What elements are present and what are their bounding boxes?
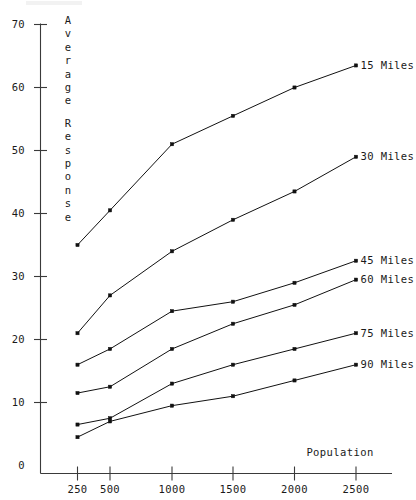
y-tick-label: 40 bbox=[12, 207, 25, 219]
series-label-90-miles: 90 Miles bbox=[361, 358, 415, 370]
data-point-marker bbox=[231, 395, 234, 398]
data-point-marker bbox=[76, 332, 79, 335]
data-point-marker bbox=[108, 347, 111, 350]
series-line-75-miles bbox=[78, 333, 357, 424]
series-label-45-miles: 45 Miles bbox=[361, 254, 415, 266]
data-point-marker bbox=[293, 303, 296, 306]
data-point-marker bbox=[170, 250, 173, 253]
x-tick-label: 2500 bbox=[343, 483, 370, 495]
series-line-15-miles bbox=[78, 65, 357, 245]
data-point-marker bbox=[231, 114, 234, 117]
y-tick-label: 30 bbox=[12, 270, 25, 282]
data-point-marker bbox=[293, 281, 296, 284]
x-tick-label: 250 bbox=[67, 483, 87, 495]
series-line-60-miles bbox=[78, 280, 357, 393]
data-point-marker bbox=[231, 218, 234, 221]
data-point-marker bbox=[354, 278, 357, 281]
data-point-marker bbox=[170, 143, 173, 146]
chart-plot-area: 010203040506070 2505001000150020002500 1… bbox=[0, 0, 416, 500]
y-tick-label: 10 bbox=[12, 396, 25, 408]
data-point-marker bbox=[293, 347, 296, 350]
y-tick-label: 70 bbox=[12, 18, 25, 30]
x-tick-label: 500 bbox=[100, 483, 120, 495]
data-point-marker bbox=[108, 294, 111, 297]
series-line-30-miles bbox=[78, 157, 357, 333]
data-point-marker bbox=[108, 420, 111, 423]
chart-container: AverageResponse 010203040506070 25050010… bbox=[0, 0, 416, 500]
series-label-30-miles: 30 Miles bbox=[361, 150, 415, 162]
y-axis-ticks: 010203040506070 bbox=[12, 18, 47, 471]
data-point-marker bbox=[293, 86, 296, 89]
series-label-75-miles: 75 Miles bbox=[361, 327, 415, 339]
data-point-marker bbox=[170, 347, 173, 350]
data-point-marker bbox=[354, 363, 357, 366]
x-tick-label: 2000 bbox=[281, 483, 308, 495]
data-point-marker bbox=[76, 363, 79, 366]
data-point-marker bbox=[108, 417, 111, 420]
data-point-marker bbox=[354, 64, 357, 67]
data-point-marker bbox=[354, 332, 357, 335]
y-tick-label: 20 bbox=[12, 333, 25, 345]
data-point-marker bbox=[76, 391, 79, 394]
x-axis-ticks: 2505001000150020002500 bbox=[67, 467, 369, 495]
data-point-marker bbox=[293, 190, 296, 193]
axes bbox=[41, 24, 393, 474]
data-point-marker bbox=[76, 243, 79, 246]
series-line-90-miles bbox=[78, 365, 357, 437]
y-tick-label: 50 bbox=[12, 144, 25, 156]
y-tick-label: 0 bbox=[18, 459, 24, 471]
series-line-45-miles bbox=[78, 261, 357, 365]
x-tick-label: 1500 bbox=[220, 483, 247, 495]
y-tick-label: 60 bbox=[12, 81, 25, 93]
data-point-marker bbox=[231, 322, 234, 325]
data-point-marker bbox=[231, 363, 234, 366]
data-point-marker bbox=[170, 382, 173, 385]
x-axis-title: Population bbox=[306, 446, 373, 458]
data-point-marker bbox=[170, 310, 173, 313]
series-labels: 15 Miles30 Miles45 Miles60 Miles75 Miles… bbox=[361, 59, 415, 370]
x-tick-label: 1000 bbox=[159, 483, 186, 495]
data-point-marker bbox=[108, 209, 111, 212]
data-point-marker bbox=[76, 436, 79, 439]
data-point-marker bbox=[170, 404, 173, 407]
data-point-marker bbox=[108, 385, 111, 388]
data-point-marker bbox=[354, 155, 357, 158]
data-point-marker bbox=[76, 423, 79, 426]
data-series bbox=[76, 64, 358, 439]
data-point-marker bbox=[354, 259, 357, 262]
data-point-marker bbox=[231, 300, 234, 303]
series-label-15-miles: 15 Miles bbox=[361, 59, 415, 71]
series-label-60-miles: 60 Miles bbox=[361, 273, 415, 285]
data-point-marker bbox=[293, 379, 296, 382]
